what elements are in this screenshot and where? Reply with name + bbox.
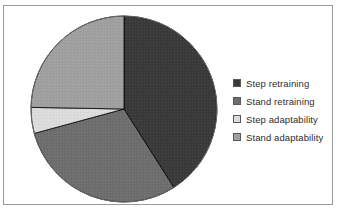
pie-chart-svg <box>30 15 218 203</box>
legend-swatch-stand-adaptability <box>233 133 241 141</box>
figure-canvas: ............ Step re <box>0 0 338 213</box>
legend-swatch-step-adaptability <box>233 115 241 123</box>
legend-swatch-stand-retraining <box>233 97 241 105</box>
legend-item-step-retraining[interactable]: Step retraining <box>233 75 337 91</box>
clipped-top-text: ............ <box>62 0 278 1</box>
legend-label-stand-retraining: Stand retraining <box>246 96 315 107</box>
legend: Step retraining Stand retraining Step ad… <box>233 75 337 147</box>
legend-item-stand-adaptability[interactable]: Stand adaptability <box>233 129 337 145</box>
legend-item-step-adaptability[interactable]: Step adaptability <box>233 111 337 127</box>
pie-texture-overlay <box>31 16 217 202</box>
legend-label-stand-adaptability: Stand adaptability <box>246 132 323 143</box>
clipped-top-text-strip: ............ <box>0 0 338 4</box>
legend-item-stand-retraining[interactable]: Stand retraining <box>233 93 337 109</box>
legend-label-step-adaptability: Step adaptability <box>246 114 318 125</box>
legend-label-step-retraining: Step retraining <box>246 78 309 89</box>
legend-swatch-step-retraining <box>233 79 241 87</box>
pie-chart <box>30 15 218 203</box>
plot-frame-border: Step retraining Stand retraining Step ad… <box>3 5 333 205</box>
